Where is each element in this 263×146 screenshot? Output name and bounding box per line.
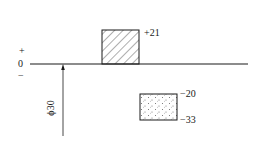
nominal-size-label: ϕ30 [46, 100, 56, 115]
hole-upper-deviation-label: +21 [144, 28, 160, 38]
shaft-lower-deviation-label: −33 [180, 115, 196, 125]
shaft-upper-deviation-label: −20 [180, 89, 196, 99]
tolerance-diagram-canvas [0, 0, 263, 146]
minus-sign-label: − [18, 71, 24, 81]
shaft-tolerance-zone [140, 94, 177, 120]
zero-label: 0 [18, 59, 23, 69]
plus-sign-label: + [19, 46, 25, 56]
arrowhead-icon [61, 64, 65, 70]
hole-tolerance-zone [102, 30, 139, 64]
